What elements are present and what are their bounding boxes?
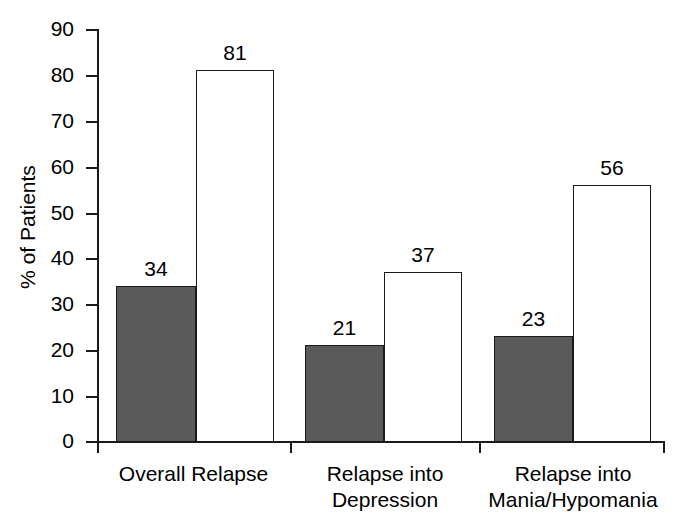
y-tick-50: [86, 213, 97, 215]
y-tick-60: [86, 167, 97, 169]
y-tick-40: [86, 258, 97, 260]
category-label-relapse-depression: Relapse into Depression: [292, 461, 478, 513]
category-label-relapse-mania: Relapse into Mania/Hypomania: [478, 461, 668, 513]
bar-overall-relapse-dark: [116, 286, 196, 442]
category-label-line1: Relapse into: [327, 462, 444, 485]
y-tick-label-30: 30: [12, 293, 74, 314]
bar-value-23: 23: [494, 308, 573, 329]
bar-relapse-depression-dark: [305, 345, 384, 442]
y-tick-label-20: 20: [12, 339, 74, 360]
y-tick-0: [86, 441, 97, 443]
y-axis-line: [97, 29, 99, 443]
y-tick-10: [86, 396, 97, 398]
category-label-line2: Mania/Hypomania: [478, 487, 668, 513]
category-label-line2: Depression: [292, 487, 478, 513]
x-separator-tick-end: [663, 441, 665, 453]
y-tick-label-40: 40: [12, 247, 74, 268]
bar-value-56: 56: [573, 157, 651, 178]
bar-relapse-mania-dark: [494, 336, 573, 442]
category-label-overall-relapse: Overall Relapse: [96, 461, 291, 487]
x-separator-tick-start: [97, 441, 99, 453]
x-separator-tick-1: [290, 441, 292, 453]
y-tick-label-10: 10: [12, 385, 74, 406]
bar-overall-relapse-light: [196, 70, 274, 442]
category-label-line1: Overall Relapse: [119, 462, 268, 485]
y-tick-20: [86, 350, 97, 352]
category-label-line1: Relapse into: [515, 462, 632, 485]
y-tick-label-70: 70: [12, 110, 74, 131]
bar-value-21: 21: [305, 317, 384, 338]
y-tick-70: [86, 121, 97, 123]
bar-value-37: 37: [384, 244, 462, 265]
y-tick-label-0: 0: [12, 430, 74, 451]
y-tick-90: [86, 29, 97, 31]
bar-value-34: 34: [116, 258, 196, 279]
y-tick-label-80: 80: [12, 64, 74, 85]
y-tick-label-50: 50: [12, 202, 74, 223]
bar-relapse-mania-light: [573, 185, 651, 442]
y-tick-label-60: 60: [12, 156, 74, 177]
y-tick-label-90: 90: [12, 18, 74, 39]
bar-value-81: 81: [196, 42, 274, 63]
y-tick-30: [86, 304, 97, 306]
bar-relapse-depression-light: [384, 272, 462, 442]
y-tick-80: [86, 75, 97, 77]
x-separator-tick-2: [479, 441, 481, 453]
bar-chart: % of Patients 90 80 70 60 50 40 30 20 10…: [0, 0, 690, 523]
